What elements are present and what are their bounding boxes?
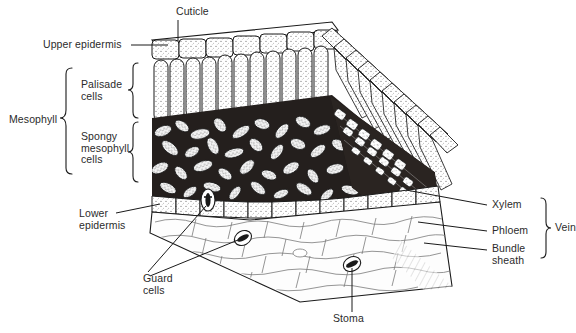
brace-mesophyll bbox=[60, 68, 72, 174]
brace-vein bbox=[541, 198, 551, 258]
stoma-and-guard-cells-front bbox=[201, 189, 215, 211]
label-xylem: Xylem bbox=[492, 199, 522, 211]
label-upper-epidermis: Upper epidermis bbox=[43, 39, 122, 51]
label-mesophyll: Mesophyll bbox=[9, 114, 57, 126]
label-cuticle: Cuticle bbox=[176, 6, 209, 18]
label-vein: Vein bbox=[555, 222, 576, 234]
brace-spongy bbox=[128, 122, 138, 182]
label-spongy-mesophyll-cells: Spongy mesophyll cells bbox=[81, 131, 129, 166]
label-bundle-sheath: Bundle sheath bbox=[492, 243, 525, 266]
label-guard-cells: Guard cells bbox=[143, 273, 173, 296]
label-phloem: Phloem bbox=[492, 225, 528, 237]
label-palisade-cells: Palisade cells bbox=[81, 79, 122, 102]
stoma-small-extra bbox=[293, 249, 307, 257]
label-lower-epidermis: Lower epidermis bbox=[79, 208, 125, 231]
label-stoma: Stoma bbox=[333, 313, 364, 325]
brace-palisade bbox=[128, 63, 138, 118]
